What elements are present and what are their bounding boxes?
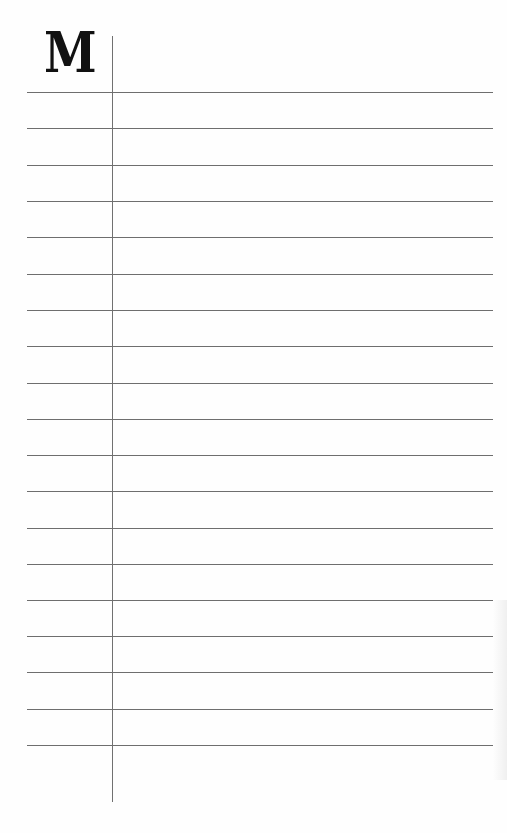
ruled-line: [27, 491, 493, 492]
ruled-line: [27, 455, 493, 456]
ruled-line: [27, 709, 493, 710]
ruled-line: [27, 237, 493, 238]
ruled-line: [27, 419, 493, 420]
ruled-line: [27, 383, 493, 384]
ruled-line: [27, 564, 493, 565]
ruled-line: [27, 672, 493, 673]
ruled-line: [27, 128, 493, 129]
ruled-line: [27, 528, 493, 529]
index-letter: M: [44, 22, 97, 82]
ruled-line: [27, 346, 493, 347]
ruled-line: [27, 165, 493, 166]
ruled-line: [27, 745, 493, 746]
notebook-page: M: [0, 0, 507, 833]
ruled-line: [27, 92, 493, 93]
ruled-line: [27, 274, 493, 275]
ruled-line: [27, 600, 493, 601]
page-edge-shadow: [493, 600, 507, 780]
ruled-line: [27, 636, 493, 637]
ruled-line: [27, 201, 493, 202]
ruled-line: [27, 310, 493, 311]
